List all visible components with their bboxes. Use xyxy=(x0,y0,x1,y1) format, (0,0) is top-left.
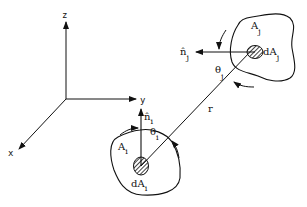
normal-i-label: n̂i xyxy=(144,111,153,126)
normal-j-label: n̂j xyxy=(180,46,189,62)
y-axis-label: y xyxy=(140,95,146,105)
surface-j: n̂j Aj θj dAj xyxy=(180,14,295,87)
rotation-arrow-i-top xyxy=(120,128,138,135)
area-element-i-label: dAi xyxy=(131,178,148,193)
distance-line-r xyxy=(141,52,250,166)
view-factor-diagram: z y x n̂i Ai θi dAi r n̂j Aj θj dAj xyxy=(0,0,307,207)
distance-label: r xyxy=(208,103,213,114)
rotation-arrow-j-top xyxy=(219,30,226,49)
area-j-label: Aj xyxy=(250,20,261,36)
x-axis xyxy=(19,99,66,149)
area-element-j-label: dAj xyxy=(263,46,279,62)
angle-i-label: θi xyxy=(150,126,159,142)
x-axis-label: x xyxy=(8,148,14,158)
z-axis-label: z xyxy=(62,10,67,20)
coordinate-axes: z y x xyxy=(8,10,146,158)
area-i-label: Ai xyxy=(117,141,128,156)
angle-j-label: θj xyxy=(215,64,224,81)
surface-i: n̂i Ai θi dAi xyxy=(111,109,180,195)
rotation-arrow-j-bottom xyxy=(234,82,254,87)
